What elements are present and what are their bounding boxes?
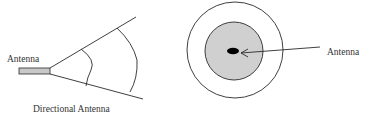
omnidirectional-antenna-figure: Antenna — [187, 2, 360, 98]
directional-antenna-body — [19, 68, 50, 74]
inner-wavefront-arc — [81, 49, 92, 86]
directional-antenna-label: Antenna — [7, 54, 40, 64]
directional-antenna-caption: Directional Antenna — [33, 104, 111, 114]
antenna-dot — [227, 48, 239, 54]
antenna-diagram: Antenna Directional Antenna Antenna — [0, 0, 368, 122]
omnidirectional-antenna-label: Antenna — [327, 47, 360, 57]
outer-wavefront-arc — [117, 28, 137, 92]
directional-antenna-figure: Antenna Directional Antenna — [7, 17, 143, 114]
beam-upper-edge — [50, 17, 136, 68]
beam-lower-edge — [50, 74, 143, 99]
